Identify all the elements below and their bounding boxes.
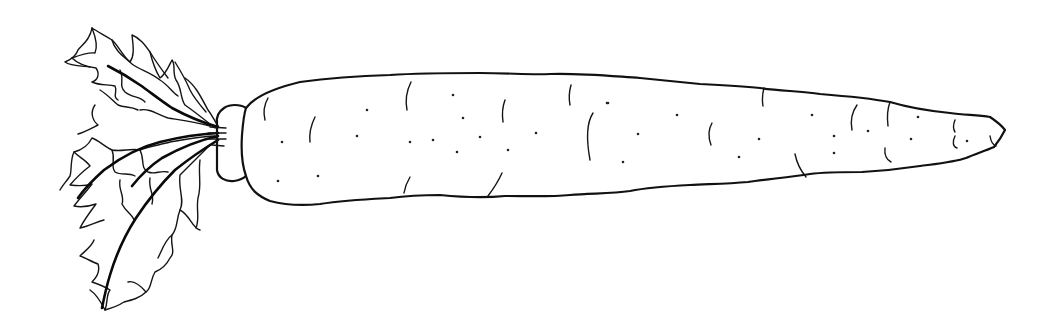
carrot-illustration	[0, 0, 1062, 333]
carrot-body	[242, 73, 1005, 205]
carrot-leaves	[60, 28, 218, 310]
carrot-surface-dots	[277, 94, 969, 183]
carrot-surface-lines	[264, 82, 996, 196]
